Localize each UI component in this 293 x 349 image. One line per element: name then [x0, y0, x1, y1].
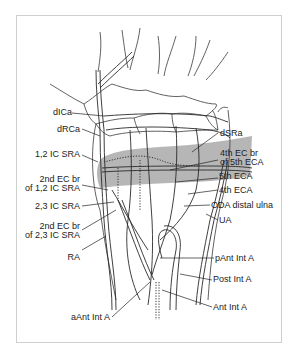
- label-post-int-a: Post Int A: [213, 275, 252, 284]
- label-ua: UA: [219, 216, 232, 225]
- label-ant-int-a: Ant Int A: [213, 303, 247, 312]
- label-oda-distal-ulna: ODA distal ulna: [211, 201, 273, 210]
- label-line: of 5th ECA: [220, 158, 264, 167]
- label-line: of 1,2 IC SRA: [14, 184, 80, 193]
- label-dica: dICa: [40, 108, 72, 117]
- label-4th-ec-br-5th-eca: 4th EC br of 5th ECA: [220, 149, 264, 167]
- label-pant-int-a: pAnt Int A: [215, 254, 254, 263]
- label-dsra: dSRa: [220, 129, 243, 138]
- label-4th-eca: 4th ECA: [219, 186, 253, 195]
- label-5th-eca: 5th ECA: [219, 172, 253, 181]
- label-ra: RA: [40, 253, 80, 262]
- label-aant-int-a: aAnt Int A: [50, 313, 110, 322]
- label-1-2-ic-sra: 1,2 IC SRA: [20, 150, 80, 159]
- leader-lines: [72, 113, 218, 317]
- label-2nd-ec-br-1-2: 2nd EC br of 1,2 IC SRA: [14, 175, 80, 193]
- label-drca: dRCa: [40, 125, 80, 134]
- label-2nd-ec-br-2-3: 2nd EC br of 2,3 IC SRA: [14, 222, 80, 240]
- label-line: of 2,3 IC SRA: [14, 231, 80, 240]
- label-2-3-ic-sra: 2,3 IC SRA: [20, 202, 80, 211]
